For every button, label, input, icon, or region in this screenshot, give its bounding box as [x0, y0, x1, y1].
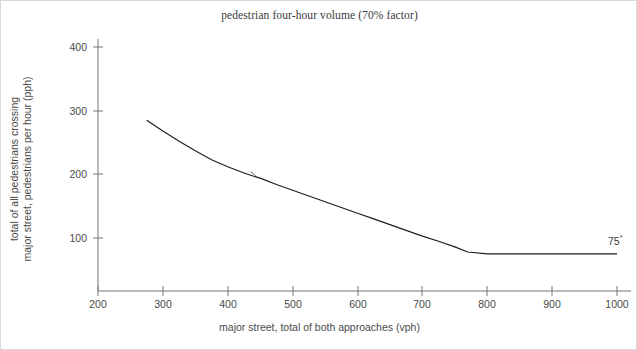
y-axis-title-line1: total of all pedestrians crossing	[8, 97, 20, 241]
y-tick-label-100: 100	[69, 232, 87, 244]
x-tick-label-300: 300	[154, 298, 172, 310]
y-tick-label-200: 200	[69, 168, 87, 180]
x-tick-label-600: 600	[349, 298, 367, 310]
x-axis-title: major street, total of both approaches (…	[1, 321, 637, 333]
y-axis-title: total of all pedestrians crossing major …	[6, 47, 36, 291]
floor-value-superscript: *	[620, 234, 623, 241]
axis-spines	[98, 39, 631, 291]
data-curve	[147, 120, 617, 254]
x-tick-label-400: 400	[219, 298, 237, 310]
x-tick-label-700: 700	[413, 298, 431, 310]
y-axis-title-line2: major street, pedestrians per hour (pph)	[21, 76, 33, 261]
floor-value-text: 75	[608, 235, 620, 247]
x-tick-label-200: 200	[89, 298, 107, 310]
x-tick-label-1000: 1000	[605, 298, 629, 310]
plot-area: 100 200 300 400 200 300 400 500 600 700 …	[1, 1, 637, 350]
floor-value-annotation: 75*	[608, 234, 622, 247]
x-tick-label-800: 800	[478, 298, 496, 310]
y-tick-label-300: 300	[69, 105, 87, 117]
x-tick-label-500: 500	[284, 298, 302, 310]
y-tick-label-400: 400	[69, 41, 87, 53]
chart-page: pedestrian four-hour volume (70% factor)…	[0, 0, 637, 350]
x-tick-label-900: 900	[543, 298, 561, 310]
